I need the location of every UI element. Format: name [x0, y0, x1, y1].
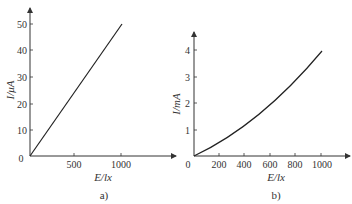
data-line-a [30, 24, 122, 156]
y-tick-label-b-2: 2 [185, 98, 190, 109]
y-tick-label-b-3: 3 [185, 72, 190, 83]
y-tick-label-a-40: 40 [17, 45, 27, 56]
y-tick-label-b-4: 4 [185, 45, 190, 56]
x-tick-label-b-400: 400 [237, 159, 252, 170]
y-tick-label-a-20: 20 [17, 99, 27, 110]
y-tick-label-a-30: 30 [17, 72, 27, 83]
x-tick-label-a-1000: 1000 [111, 159, 131, 170]
panel-caption-a: a) [100, 189, 109, 202]
y-tick-label-a-10: 10 [17, 125, 27, 136]
origin-label-b: 0 [186, 159, 191, 170]
y-axis-label-b: I/mA [170, 93, 182, 116]
panel-b: 0 1 2 3 4 200 400 600 800 1000 E/lx I/mA… [170, 32, 350, 202]
x-axis-label-b: E/lx [266, 171, 285, 183]
x-tick-label-b-600: 600 [263, 159, 278, 170]
x-tick-label-b-1000: 1000 [312, 159, 332, 170]
data-curve-b [194, 51, 322, 156]
y-tick-label-a-50: 50 [17, 19, 27, 30]
figure: 0 10 20 30 40 50 500 1000 E/lx I/μA a) 0 [0, 0, 352, 204]
x-axis-label-a: E/lx [93, 171, 112, 183]
panel-caption-b: b) [271, 189, 281, 202]
y-axis-label-a: I/μA [4, 80, 16, 100]
x-tick-label-a-500: 500 [67, 159, 82, 170]
x-tick-label-b-800: 800 [288, 159, 303, 170]
x-tick-label-b-200: 200 [212, 159, 227, 170]
y-tick-label-b-1: 1 [185, 125, 190, 136]
panel-a: 0 10 20 30 40 50 500 1000 E/lx I/μA a) [4, 8, 176, 202]
origin-label-a: 0 [19, 153, 24, 164]
